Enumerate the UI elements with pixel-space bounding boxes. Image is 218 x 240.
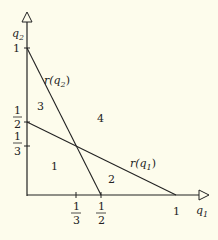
x-axis-label: q1 [196,204,208,219]
y-tick-label-third-num: 1 [14,130,21,143]
region-4: 4 [97,112,104,125]
best-response-diagram: q2 q1 1 1 2 1 3 1 3 1 2 1 r(q2) r(q1) 1 … [0,0,218,240]
region-1: 1 [51,160,58,173]
x-tick-label-one: 1 [173,205,180,218]
x-tick-label-half-den: 2 [98,214,105,227]
y-tick-label-half-num: 1 [14,104,21,117]
y-axis-arrow-icon [22,12,32,22]
x-tick-label-half-num: 1 [98,200,105,213]
line-r-q2 [27,48,101,195]
region-3: 3 [37,100,44,113]
x-tick-label-third-num: 1 [73,200,80,213]
x-tick-label-third-den: 3 [73,214,80,227]
y-tick-label-third-den: 3 [14,145,21,158]
y-tick-label-one: 1 [13,42,20,55]
label-r-q1: r(q1) [130,157,156,172]
y-axis-label: q2 [12,27,24,42]
x-axis-arrow-icon [199,190,209,200]
label-r-q2: r(q2) [44,74,70,89]
region-2: 2 [108,173,115,186]
